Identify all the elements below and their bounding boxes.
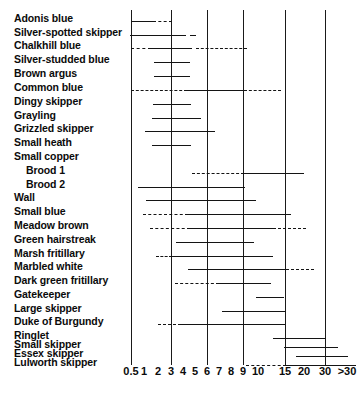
- range-segment: [244, 173, 304, 174]
- plot-area: [0, 0, 364, 360]
- x-axis-tick-label: 30: [319, 365, 331, 377]
- x-axis-tick-label: 0.5: [123, 365, 138, 377]
- range-segment: [146, 200, 256, 201]
- range-segment: [158, 324, 181, 325]
- x-axis-tick-label-row: 0.512345678910152030>30: [0, 365, 364, 385]
- axis-tick-6: [207, 358, 208, 365]
- x-axis-tick-label: 2: [155, 365, 161, 377]
- range-segment: [156, 256, 172, 257]
- axis-tick-9: [243, 358, 244, 365]
- gridline-0.5: [131, 10, 132, 358]
- x-axis-tick-label: 15: [279, 365, 291, 377]
- range-segment: [136, 35, 186, 36]
- range-segment: [150, 228, 190, 229]
- range-segment: [131, 21, 153, 22]
- range-segment: [284, 347, 338, 348]
- axis-tick-15: [285, 358, 286, 365]
- range-segment: [138, 187, 245, 188]
- x-axis-tick-label: 6: [204, 365, 210, 377]
- x-axis-tick-label: 3: [168, 365, 174, 377]
- x-axis-tick-label: 20: [298, 365, 310, 377]
- axis-tick-30: [325, 358, 326, 365]
- butterfly-flight-period-chart: Adonis blueSilver-spotted skipperChalkhi…: [0, 0, 364, 395]
- range-segment: [154, 76, 190, 77]
- range-segment: [131, 48, 151, 49]
- axis-tick-0.5: [131, 358, 132, 365]
- range-segment: [145, 131, 215, 132]
- range-segment: [175, 283, 219, 284]
- axis-tick-3: [171, 358, 172, 365]
- range-segment: [153, 104, 191, 105]
- range-segment: [188, 269, 286, 270]
- x-axis-tick-label: 8: [228, 365, 234, 377]
- range-segment: [151, 48, 192, 49]
- range-segment: [273, 338, 326, 339]
- range-segment: [192, 173, 244, 174]
- range-segment: [176, 242, 254, 243]
- gridline-30: [325, 10, 326, 358]
- range-segment: [143, 214, 188, 215]
- range-segment: [181, 324, 285, 325]
- gridline-9: [243, 10, 244, 358]
- range-segment: [286, 269, 314, 270]
- range-segment: [172, 256, 273, 257]
- range-segment: [190, 228, 273, 229]
- x-axis-tick-label: 7: [216, 365, 222, 377]
- x-axis-tick-label: >30: [338, 365, 357, 377]
- range-segment: [152, 145, 191, 146]
- range-segment: [296, 356, 348, 357]
- x-axis-tick-label: 1: [141, 365, 147, 377]
- gridline-6: [207, 10, 208, 358]
- range-segment: [222, 311, 286, 312]
- range-segment: [256, 297, 284, 298]
- range-segment: [244, 90, 281, 91]
- x-axis-tick-label: 5: [192, 365, 198, 377]
- x-axis-tick-label: 10: [252, 365, 264, 377]
- range-segment: [219, 283, 271, 284]
- x-axis-tick-label: 9: [240, 365, 246, 377]
- range-segment: [153, 21, 172, 22]
- range-segment: [190, 35, 196, 36]
- range-segment: [273, 228, 306, 229]
- range-segment: [154, 62, 190, 63]
- range-segment: [131, 90, 187, 91]
- range-segment: [196, 48, 247, 49]
- range-segment: [188, 214, 291, 215]
- x-axis-tick-label: 4: [180, 365, 186, 377]
- range-segment: [187, 90, 244, 91]
- range-segment: [152, 118, 201, 119]
- gridline-15: [285, 10, 286, 358]
